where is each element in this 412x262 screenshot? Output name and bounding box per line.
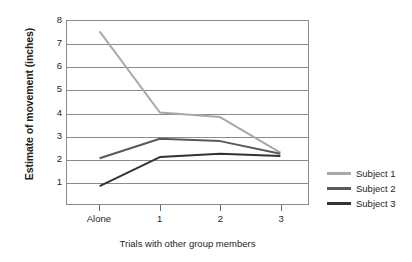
x-axis-tick-mark [99,205,100,211]
legend-label-3: Subject 3 [356,198,396,209]
x-axis-tick-mark [220,205,221,211]
data-series-layer [67,21,308,204]
x-axis-tick-label: 3 [251,213,311,224]
series-line-3 [100,154,281,186]
legend-swatch-2 [327,187,351,190]
y-axis-tick-label: 5 [46,84,62,94]
y-axis-tick-labels: 12345678 [44,0,62,262]
legend-item-1: Subject 1 [327,166,412,181]
legend-label-2: Subject 2 [356,183,396,194]
legend-swatch-1 [327,172,351,175]
legend-item-3: Subject 3 [327,196,412,211]
y-axis-tick-label: 7 [46,38,62,48]
y-axis-tick-label: 6 [46,61,62,71]
y-axis-tick-label: 8 [46,15,62,25]
line-chart-figure: Estimate of movement (inches) 12345678 A… [0,0,412,262]
x-axis-tick-mark [160,205,161,211]
x-axis-tick-label: Alone [69,213,129,224]
x-axis-tick-mark [281,205,282,211]
x-axis-title: Trials with other group members [66,238,309,249]
y-axis-tick-label: 2 [46,154,62,164]
chart-legend: Subject 1Subject 2Subject 3 [327,166,412,211]
y-axis-tick-label: 3 [46,131,62,141]
y-axis-tick-label: 4 [46,108,62,118]
y-axis-title: Estimate of movement (inches) [23,9,35,199]
y-axis-tick-label: 1 [46,177,62,187]
legend-item-2: Subject 2 [327,181,412,196]
legend-label-1: Subject 1 [356,168,396,179]
series-line-1 [100,31,281,152]
x-axis-tick-label: 2 [190,213,250,224]
plot-area [66,20,309,205]
legend-swatch-3 [327,202,351,205]
x-axis-tick-label: 1 [130,213,190,224]
